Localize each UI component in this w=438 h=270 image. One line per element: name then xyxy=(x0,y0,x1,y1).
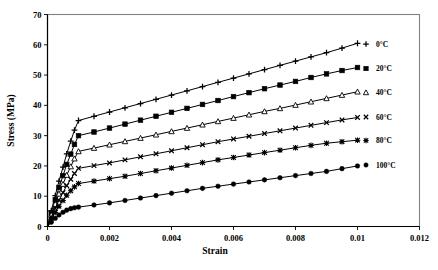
marker-circle xyxy=(340,166,345,171)
marker-plus xyxy=(91,113,97,119)
series-line xyxy=(48,43,358,226)
marker-circle xyxy=(247,180,252,185)
marker-plus xyxy=(293,58,299,64)
marker-star xyxy=(184,163,190,169)
series-100c xyxy=(48,164,360,227)
marker-plus xyxy=(231,75,237,81)
marker-star xyxy=(60,198,66,204)
marker-circle xyxy=(107,201,112,206)
marker-plus xyxy=(184,88,190,94)
y-tick-label: 10 xyxy=(33,191,42,201)
marker-square xyxy=(278,83,283,88)
marker-plus xyxy=(324,50,330,56)
marker-square xyxy=(185,106,190,111)
marker-plus xyxy=(363,41,369,47)
marker-star xyxy=(107,176,113,182)
marker-plus xyxy=(153,96,159,102)
legend-item-60c: 60°C xyxy=(364,113,392,122)
marker-circle xyxy=(262,178,267,183)
x-tick-label: 0.01 xyxy=(350,233,365,243)
y-tick-label: 30 xyxy=(33,131,42,141)
marker-circle xyxy=(364,163,368,167)
marker-plus xyxy=(339,45,345,51)
legend-label: 60°C xyxy=(376,113,392,122)
marker-circle xyxy=(92,203,97,208)
marker-plus xyxy=(200,84,206,90)
marker-star xyxy=(231,155,237,161)
marker-star xyxy=(324,140,330,146)
marker-circle xyxy=(53,216,58,221)
marker-square xyxy=(364,66,368,70)
marker-triangle xyxy=(355,89,360,94)
marker-circle xyxy=(278,175,283,180)
legend-item-40c: 40°C xyxy=(363,88,392,97)
legend-label: 100°C xyxy=(376,161,396,170)
marker-star xyxy=(122,173,128,179)
x-tick-label: 0.006 xyxy=(224,233,243,243)
marker-square xyxy=(92,130,97,135)
x-tick-label: 0.012 xyxy=(410,233,429,243)
x-axis-title: Strain xyxy=(202,246,228,256)
marker-plus xyxy=(308,54,314,60)
marker-circle xyxy=(185,188,190,193)
legend-item-0c: 0°C xyxy=(363,40,388,49)
legend-item-100c: 100°C xyxy=(364,161,396,170)
marker-square xyxy=(340,68,345,73)
marker-plus xyxy=(169,92,175,98)
marker-star xyxy=(138,171,144,177)
marker-star xyxy=(200,160,206,166)
marker-circle xyxy=(49,220,54,225)
marker-cross xyxy=(72,171,77,176)
marker-plus xyxy=(138,101,144,107)
marker-star xyxy=(169,165,175,171)
marker-square xyxy=(262,86,267,91)
marker-plus xyxy=(355,40,361,46)
marker-square xyxy=(138,118,143,123)
marker-plus xyxy=(107,109,113,115)
marker-triangle xyxy=(363,90,368,95)
marker-star xyxy=(76,181,82,187)
legend-label: 40°C xyxy=(376,88,392,97)
stress-strain-chart: 01020304050607000.0020.0040.0060.0080.01… xyxy=(0,0,438,270)
chart-canvas: 01020304050607000.0020.0040.0060.0080.01… xyxy=(0,0,438,270)
marker-square xyxy=(154,114,159,119)
marker-square xyxy=(200,102,205,107)
marker-plus xyxy=(246,71,252,77)
marker-square xyxy=(72,142,77,147)
marker-cross xyxy=(364,115,368,119)
marker-plus xyxy=(72,127,78,133)
y-tick-label: 50 xyxy=(33,70,42,80)
marker-cross xyxy=(68,177,73,182)
marker-circle xyxy=(123,198,128,203)
marker-square xyxy=(293,79,298,84)
marker-plus xyxy=(215,79,221,85)
x-tick-label: 0.008 xyxy=(286,233,305,243)
y-tick-label: 20 xyxy=(33,161,42,171)
y-tick-label: 70 xyxy=(33,10,42,20)
y-axis-title: Stress (MPa) xyxy=(6,94,17,146)
marker-circle xyxy=(76,205,81,210)
legend-item-20c: 20°C xyxy=(364,64,392,73)
marker-star xyxy=(215,157,221,163)
legend-label: 20°C xyxy=(376,64,392,73)
marker-circle xyxy=(216,184,221,189)
marker-star xyxy=(308,143,314,149)
marker-square xyxy=(169,110,174,115)
marker-star xyxy=(262,150,268,156)
marker-circle xyxy=(231,182,236,187)
marker-plus xyxy=(262,67,268,73)
marker-star xyxy=(64,193,70,199)
marker-plus xyxy=(122,105,128,111)
marker-plus xyxy=(277,62,283,68)
x-tick-label: 0.002 xyxy=(100,233,119,243)
marker-square xyxy=(324,72,329,77)
marker-star xyxy=(56,203,62,209)
marker-square xyxy=(76,133,81,138)
marker-circle xyxy=(324,169,329,174)
marker-circle xyxy=(309,171,314,176)
y-tick-label: 40 xyxy=(33,100,42,110)
marker-star xyxy=(339,139,345,145)
legend-label: 80°C xyxy=(376,136,392,145)
y-tick-label: 60 xyxy=(33,40,42,50)
marker-circle xyxy=(200,186,205,191)
